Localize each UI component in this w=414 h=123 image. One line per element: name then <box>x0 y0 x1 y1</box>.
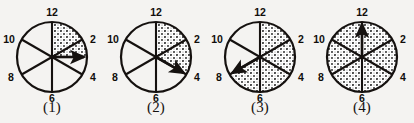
clock-1-svg: 12 2 4 6 8 10 <box>0 0 104 104</box>
hour-label-8: 8 <box>216 71 222 83</box>
clock-3-svg: 12 2 4 6 8 10 <box>208 0 312 104</box>
clock-figure: 12 2 4 6 8 10 (1) 12 2 4 6 8 10 <box>0 0 414 123</box>
clock-caption-1: (1) <box>0 99 104 116</box>
clock-diagram-1: 12 2 4 6 8 10 (1) <box>0 0 104 123</box>
hour-label-10: 10 <box>3 33 15 45</box>
hour-label-8: 8 <box>112 71 118 83</box>
clock-caption-4-text: (4) <box>353 99 371 116</box>
clock-caption-4: (4) <box>310 99 414 116</box>
clock-caption-3: (3) <box>208 99 312 116</box>
hour-label-4: 4 <box>194 71 200 83</box>
clock-caption-2-text: (2) <box>147 99 165 116</box>
hour-label-10: 10 <box>211 33 223 45</box>
hour-label-4: 4 <box>90 71 96 83</box>
clock-diagram-2: 12 2 4 6 8 10 (2) <box>104 0 208 123</box>
hour-label-4: 4 <box>400 71 406 83</box>
clock-4-svg: 12 2 4 6 8 10 <box>310 0 414 104</box>
hour-label-12: 12 <box>356 6 368 18</box>
hour-label-12: 12 <box>254 6 266 18</box>
clock-diagram-4: 12 2 4 6 8 10 (4) <box>310 0 414 123</box>
hour-label-2: 2 <box>298 33 304 45</box>
clock-caption-2: (2) <box>104 99 208 116</box>
hour-label-2: 2 <box>90 33 96 45</box>
clock-caption-3-text: (3) <box>251 99 269 116</box>
hour-label-2: 2 <box>194 33 200 45</box>
hour-label-12: 12 <box>150 6 162 18</box>
hour-label-12: 12 <box>46 6 58 18</box>
hour-label-8: 8 <box>318 71 324 83</box>
hour-label-2: 2 <box>400 33 406 45</box>
clock-diagram-3: 12 2 4 6 8 10 (3) <box>208 0 312 123</box>
hour-label-10: 10 <box>313 33 325 45</box>
clock-2-svg: 12 2 4 6 8 10 <box>104 0 208 104</box>
clock-caption-1-text: (1) <box>43 99 61 116</box>
hour-label-8: 8 <box>8 71 14 83</box>
hour-label-10: 10 <box>107 33 119 45</box>
hour-label-4: 4 <box>298 71 304 83</box>
